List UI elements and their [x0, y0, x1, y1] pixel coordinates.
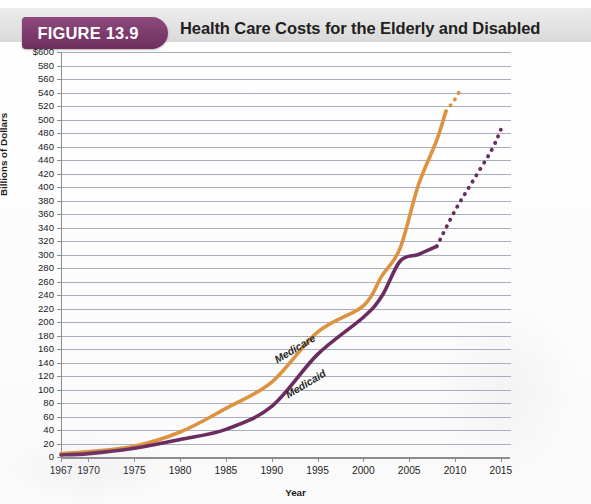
series-projection-medicare — [446, 89, 461, 111]
data-lines — [0, 0, 591, 504]
figure-container: FIGURE 13.9 Health Care Costs for the El… — [0, 0, 591, 504]
series-projection-medicaid — [437, 130, 501, 247]
